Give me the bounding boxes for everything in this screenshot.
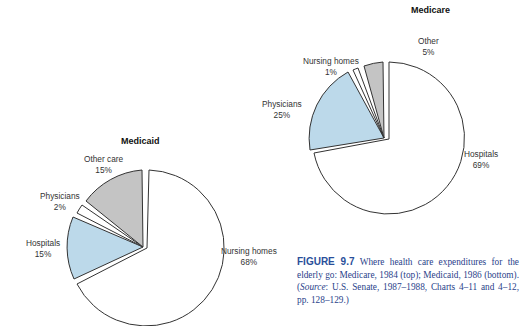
label-name: Hospitals bbox=[26, 238, 60, 249]
medicaid-title: Medicaid bbox=[121, 136, 160, 146]
label-name: Physicians bbox=[40, 191, 80, 202]
medicare-label-other: Other 5% bbox=[418, 36, 439, 58]
label-pct: 5% bbox=[418, 47, 439, 58]
label-name: Physicians bbox=[262, 99, 302, 110]
medicaid-label-nursing-homes: Nursing homes 68% bbox=[221, 246, 277, 268]
label-name: Other care bbox=[84, 154, 123, 165]
medicaid-label-physicians: Physicians 2% bbox=[40, 191, 80, 213]
label-pct: 25% bbox=[262, 110, 302, 121]
label-pct: 15% bbox=[84, 165, 123, 176]
label-name: Nursing homes bbox=[303, 56, 359, 67]
figure-number: FIGURE 9.7 bbox=[297, 256, 354, 267]
medicare-title: Medicare bbox=[411, 5, 450, 15]
medicare-label-nursing-homes: Nursing homes 1% bbox=[303, 56, 359, 78]
medicaid-label-hospitals: Hospitals 15% bbox=[26, 238, 60, 260]
label-pct: 15% bbox=[26, 249, 60, 260]
label-pct: 69% bbox=[464, 160, 498, 171]
label-name: Hospitals bbox=[464, 149, 498, 160]
label-pct: 68% bbox=[221, 257, 277, 268]
label-pct: 2% bbox=[40, 202, 80, 213]
label-pct: 1% bbox=[303, 67, 359, 78]
caption-source-label: Source bbox=[300, 282, 325, 292]
figure-caption: FIGURE 9.7 Where health care expenditure… bbox=[297, 256, 519, 306]
label-name: Nursing homes bbox=[221, 246, 277, 257]
medicare-label-hospitals: Hospitals 69% bbox=[464, 149, 498, 171]
label-name: Other bbox=[418, 36, 439, 47]
medicare-label-physicians: Physicians 25% bbox=[262, 99, 302, 121]
medicaid-label-other-care: Other care 15% bbox=[84, 154, 123, 176]
caption-text-2: : U.S. Senate, 1987–1988, Charts 4–11 an… bbox=[297, 282, 519, 305]
